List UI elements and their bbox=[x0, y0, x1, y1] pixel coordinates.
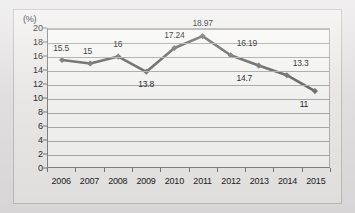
x-axis-tick-mark bbox=[330, 168, 331, 172]
x-axis-tick-label: 2006 bbox=[52, 176, 71, 186]
data-point-label: 15.5 bbox=[53, 43, 69, 53]
x-axis-tick-mark bbox=[160, 168, 161, 172]
data-point-label: 17.24 bbox=[164, 30, 184, 40]
x-axis-tick-mark bbox=[75, 168, 76, 172]
y-axis-tick-labels: 20181614121086420 bbox=[14, 28, 43, 168]
x-axis-tick-label: 2008 bbox=[108, 176, 127, 186]
x-axis-tick-label: 2009 bbox=[136, 176, 155, 186]
x-axis-tick-mark bbox=[189, 168, 190, 172]
data-point-label: 11 bbox=[300, 99, 308, 109]
x-axis-tick-label: 2010 bbox=[165, 176, 184, 186]
x-axis-tick-label: 2012 bbox=[221, 176, 240, 186]
x-axis-tick-mark bbox=[132, 168, 133, 172]
gridline bbox=[48, 71, 329, 72]
gridline bbox=[48, 155, 329, 156]
y-axis-tick-label: 4 bbox=[14, 135, 43, 145]
gridline bbox=[48, 57, 329, 58]
x-axis-tick-mark bbox=[104, 168, 105, 172]
gridline bbox=[48, 85, 329, 86]
x-axis-tick-label: 2011 bbox=[193, 176, 212, 186]
data-point-label: 13.3 bbox=[293, 58, 309, 68]
y-axis-tick-label: 10 bbox=[14, 93, 43, 103]
x-axis-tick-label: 2007 bbox=[80, 176, 99, 186]
x-axis-tick-label: 2014 bbox=[278, 176, 297, 186]
x-axis-tick-mark bbox=[302, 168, 303, 172]
data-point-label: 13.8 bbox=[138, 79, 154, 89]
x-axis-tick-mark bbox=[217, 168, 218, 172]
y-axis-tick-label: 18 bbox=[14, 37, 43, 47]
x-axis-tick-mark bbox=[245, 168, 246, 172]
gridline bbox=[48, 113, 329, 114]
y-axis-tick-label: 6 bbox=[14, 121, 43, 131]
gridline bbox=[48, 29, 329, 30]
line-chart-figure: (%) 20181614121086420 15.5151613.817.241… bbox=[0, 0, 355, 213]
x-axis: 2006200720082009201020112012201320142015 bbox=[47, 168, 330, 198]
data-point-marker bbox=[87, 60, 93, 66]
data-point-label: 18.97 bbox=[193, 18, 213, 28]
x-axis-tick-label: 2015 bbox=[306, 176, 325, 186]
data-point-label: 16.19 bbox=[237, 38, 257, 48]
series-polyline bbox=[62, 36, 315, 91]
y-axis-tick-label: 2 bbox=[14, 149, 43, 159]
y-axis-tick-label: 16 bbox=[14, 51, 43, 61]
gridline bbox=[48, 99, 329, 100]
y-axis-tick-label: 20 bbox=[14, 23, 43, 33]
gridline bbox=[48, 141, 329, 142]
x-axis-tick-mark bbox=[273, 168, 274, 172]
x-axis-tick-label: 2013 bbox=[250, 176, 269, 186]
data-point-label: 14.7 bbox=[236, 73, 252, 83]
y-axis-tick-label: 14 bbox=[14, 65, 43, 75]
gridline bbox=[48, 127, 329, 128]
gridline bbox=[48, 43, 329, 44]
y-axis-tick-label: 0 bbox=[14, 163, 43, 173]
y-axis-tick-label: 8 bbox=[14, 107, 43, 117]
y-axis-tick-label: 12 bbox=[14, 79, 43, 89]
data-point-label: 15 bbox=[83, 46, 92, 56]
x-axis-tick-mark bbox=[47, 168, 48, 172]
data-point-label: 16 bbox=[113, 39, 122, 49]
